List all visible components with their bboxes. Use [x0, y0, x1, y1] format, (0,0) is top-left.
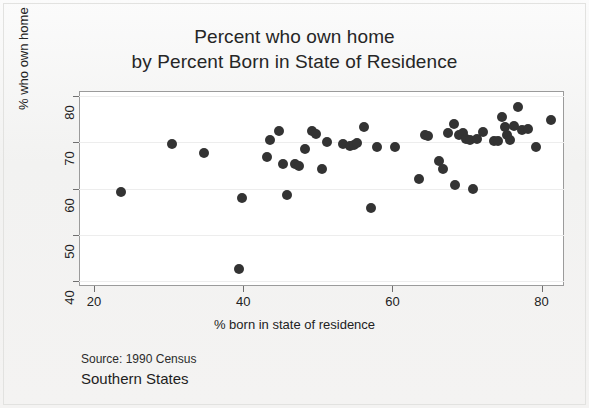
data-point [414, 174, 424, 184]
data-point [116, 187, 126, 197]
x-tick-60 [392, 286, 393, 292]
data-point [468, 184, 478, 194]
chart-page: Percent who own home by Percent Born in … [0, 0, 589, 408]
data-point [294, 161, 304, 171]
data-point [322, 137, 332, 147]
data-point [523, 124, 533, 134]
x-tick-label-40: 40 [225, 294, 261, 309]
data-point [300, 144, 310, 154]
data-point [513, 102, 523, 112]
x-tick-label-60: 60 [374, 294, 410, 309]
subtitle-note: Southern States [81, 370, 189, 387]
y-tick-label-60: 60 [62, 188, 77, 222]
data-point [167, 139, 177, 149]
data-point [237, 193, 247, 203]
x-tick-40 [243, 286, 244, 292]
data-point [282, 190, 292, 200]
gridline-y-40 [79, 281, 564, 282]
data-point [262, 152, 272, 162]
gridline-y-60 [79, 189, 564, 190]
x-tick-20 [94, 286, 95, 292]
data-point [478, 127, 488, 137]
x-axis-label: % born in state of residence [0, 317, 589, 332]
plot-points-layer [79, 91, 564, 286]
data-point [449, 119, 459, 129]
data-point [438, 164, 448, 174]
data-point [450, 180, 460, 190]
y-axis-label: % who own home [16, 7, 31, 110]
data-point [265, 135, 275, 145]
chart-title: Percent who own home by Percent Born in … [0, 24, 589, 74]
data-point [423, 131, 433, 141]
data-point [497, 112, 507, 122]
data-point [278, 159, 288, 169]
data-point [199, 148, 209, 158]
data-point [372, 142, 382, 152]
chart-title-line-2: by Percent Born in State of Residence [0, 49, 589, 74]
data-point [443, 128, 453, 138]
y-tick-label-70: 70 [62, 142, 77, 176]
data-point [311, 129, 321, 139]
data-point [234, 264, 244, 274]
data-point [359, 122, 369, 132]
data-point [274, 126, 284, 136]
y-tick-label-50: 50 [62, 234, 77, 268]
data-point [546, 115, 556, 125]
x-tick-label-20: 20 [76, 294, 112, 309]
x-tick-80 [542, 286, 543, 292]
chart-title-line-1: Percent who own home [0, 24, 589, 49]
gridline-y-50 [79, 235, 564, 236]
x-tick-label-80: 80 [524, 294, 560, 309]
data-point [366, 203, 376, 213]
data-point [505, 135, 515, 145]
data-point [352, 138, 362, 148]
gridline-y-80 [79, 96, 564, 97]
plot-area [79, 91, 564, 286]
source-note: Source: 1990 Census [81, 352, 196, 366]
y-tick-label-40: 40 [62, 281, 77, 315]
data-point [317, 164, 327, 174]
data-point [390, 142, 400, 152]
data-point [531, 142, 541, 152]
y-tick-label-80: 80 [62, 95, 77, 129]
